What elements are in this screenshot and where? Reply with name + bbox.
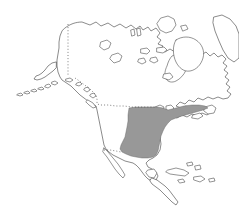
arctic-islet-b bbox=[137, 28, 141, 36]
arctic-islet-a bbox=[131, 29, 135, 36]
puerto-rico bbox=[209, 178, 215, 182]
north-america-map bbox=[0, 0, 239, 216]
bahamas-b bbox=[195, 165, 201, 170]
distribution-map-figure bbox=[0, 0, 239, 216]
bahamas-a bbox=[187, 162, 193, 166]
